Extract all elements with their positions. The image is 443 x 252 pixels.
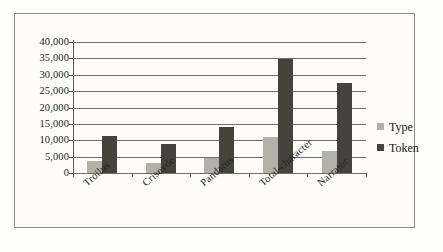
x-axis-tick-mark (307, 173, 308, 177)
x-axis-tick-mark (366, 173, 367, 177)
y-axis-tick-label: 5,000 (17, 152, 69, 162)
bar-group (73, 42, 132, 173)
bar-group (190, 42, 249, 173)
x-axis-tick-mark (190, 173, 191, 177)
y-axis-tick-label: 25,000 (17, 86, 69, 96)
y-axis-tick-label: 40,000 (17, 37, 69, 47)
y-axis-tick-label: 30,000 (17, 70, 69, 80)
legend-item-token: Token (377, 139, 425, 156)
chart-legend: TypeToken (377, 118, 425, 160)
y-axis-tick-label: 20,000 (17, 103, 69, 113)
legend-item-type: Type (377, 118, 425, 135)
x-axis-tick-mark (73, 173, 74, 177)
chart-frame: 05,00010,00015,00020,00025,00030,00035,0… (14, 13, 415, 228)
figure: 05,00010,00015,00020,00025,00030,00035,0… (0, 0, 443, 252)
y-axis-tick-label: 0 (17, 168, 69, 178)
bar-group (132, 42, 191, 173)
legend-swatch-icon (377, 144, 384, 151)
legend-swatch-icon (377, 123, 384, 130)
y-axis-tick-label: 35,000 (17, 53, 69, 63)
x-axis-tick-mark (132, 173, 133, 177)
bar-group (307, 42, 366, 173)
y-axis-tick-label: 15,000 (17, 119, 69, 129)
y-axis-tick-label: 10,000 (17, 135, 69, 145)
x-axis-tick-mark (249, 173, 250, 177)
legend-label: Token (389, 142, 419, 154)
y-axis-tick-labels: 05,00010,00015,00020,00025,00030,00035,0… (15, 42, 69, 173)
legend-label: Type (389, 121, 413, 133)
plot-area (73, 42, 366, 173)
